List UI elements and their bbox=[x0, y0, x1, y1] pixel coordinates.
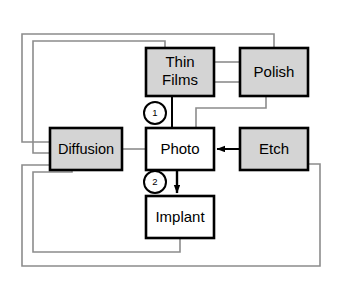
node-photo[interactable]: Photo bbox=[146, 128, 214, 170]
node-diffusion[interactable]: Diffusion bbox=[50, 128, 122, 170]
node-thin-films[interactable]: Thin Films bbox=[146, 48, 214, 96]
photo-label: Photo bbox=[160, 140, 199, 157]
node-polish[interactable]: Polish bbox=[240, 48, 308, 96]
etch-label: Etch bbox=[259, 140, 289, 157]
thin-films-label-line1: Thin bbox=[165, 53, 194, 70]
polish-label: Polish bbox=[254, 63, 295, 80]
diffusion-label: Diffusion bbox=[58, 141, 114, 157]
node-etch[interactable]: Etch bbox=[240, 128, 308, 170]
step-1-label: 1 bbox=[152, 107, 157, 118]
implant-label: Implant bbox=[155, 208, 205, 225]
edge-polish-to-photo bbox=[196, 96, 266, 128]
step-marker-2[interactable]: 2 bbox=[144, 171, 166, 193]
step-2-label: 2 bbox=[152, 176, 157, 187]
thin-films-label-line2: Films bbox=[162, 71, 198, 88]
step-marker-1[interactable]: 1 bbox=[144, 102, 166, 124]
process-flow-diagram: Thin Films Polish Diffusion Photo Etch I… bbox=[0, 0, 337, 288]
node-implant[interactable]: Implant bbox=[146, 196, 214, 238]
flow-diagram-canvas: Thin Films Polish Diffusion Photo Etch I… bbox=[0, 0, 337, 288]
